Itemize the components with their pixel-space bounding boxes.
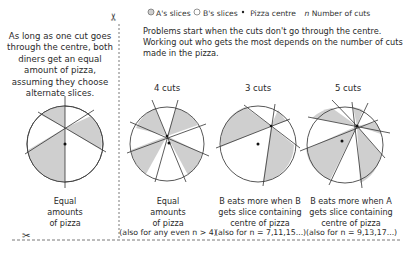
legend: A's slices B's slices Pizza centre n Num… <box>148 9 376 18</box>
legend-n-label: Number of cuts <box>312 9 371 18</box>
pizza-5-cuts <box>300 100 390 188</box>
pizza-centre-dot <box>64 143 67 146</box>
legend-a-slices: A's slices <box>156 9 191 18</box>
heading-3-cuts: 3 cuts <box>228 83 288 93</box>
pizza-centre-dot <box>257 143 260 146</box>
pizza-4-cuts <box>127 100 209 182</box>
heading-5-cuts: 5 cuts <box>318 83 378 93</box>
caption-3-cuts: B eats more when B gets slice containing… <box>215 196 305 239</box>
pizza-centre-dot <box>168 142 171 145</box>
right-intro-text: Problems start when the cuts don't go th… <box>143 26 405 60</box>
left-intro-text: As long as one cut goes through the cent… <box>4 31 116 99</box>
legend-pizza-centre: Pizza centre <box>250 9 296 18</box>
heading-4-cuts: 4 cuts <box>137 83 197 93</box>
pizza-equal-centre-cut <box>25 96 106 188</box>
caption-equal-centre-cut: Equal amounts of pizza <box>25 196 105 228</box>
legend-b-slices: B's slices <box>203 9 238 18</box>
scissors-icon-left: ✂ <box>22 231 30 241</box>
caption-5-cuts: B eats more when A gets slice containing… <box>306 196 396 239</box>
scissors-icon-top: ✂ <box>109 13 119 21</box>
caption-4-cuts: Equal amounts of pizza (also for any eve… <box>118 196 218 239</box>
legend-n-symbol: n <box>304 9 309 18</box>
pizza-3-cuts <box>216 104 300 186</box>
pizza-centre-dot <box>341 140 344 143</box>
